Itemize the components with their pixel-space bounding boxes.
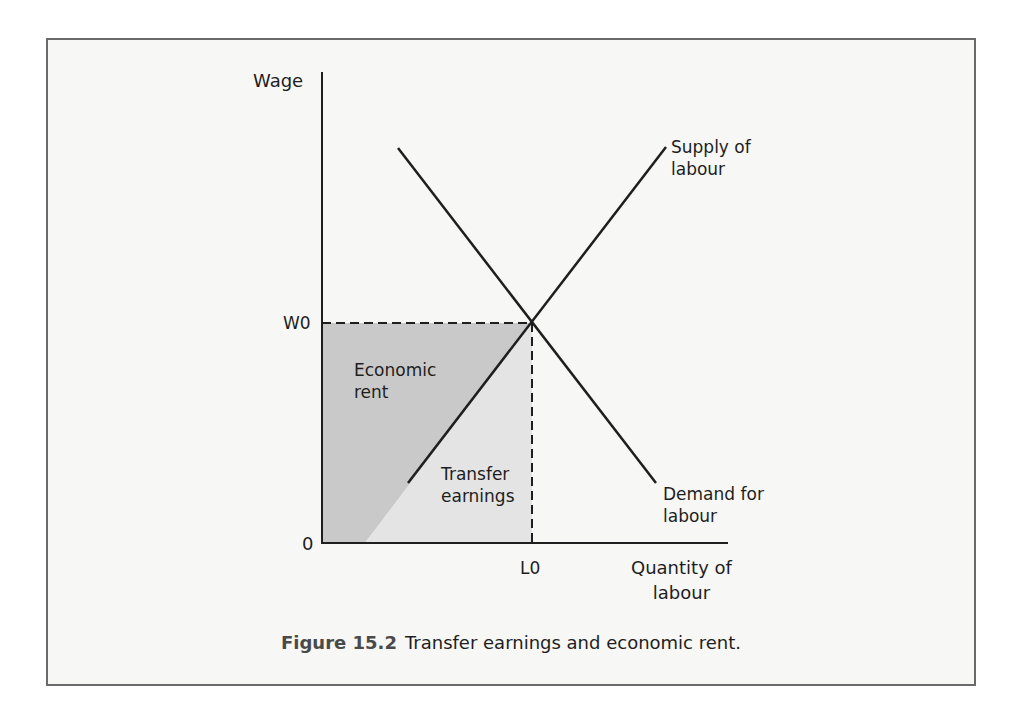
figure-caption-text: Transfer earnings and economic rent. [405,632,741,653]
labour-market-diagram [0,0,1022,718]
demand-curve-label: Demand for labour [663,483,764,527]
supply-curve-label: Supply of labour [671,136,751,180]
figure-caption: Figure 15.2Transfer earnings and economi… [0,632,1022,653]
origin-label: 0 [302,533,313,555]
figure-number: Figure 15.2 [281,632,397,653]
x-axis-label: Quantity of labour [631,555,732,605]
transfer-earnings-label: Transfer earnings [441,463,515,507]
w0-label: W0 [283,312,311,334]
supply-curve [408,147,666,483]
economic-rent-label: Economic rent [354,359,436,403]
l0-label: L0 [520,557,540,579]
y-axis-label: Wage [253,70,303,92]
